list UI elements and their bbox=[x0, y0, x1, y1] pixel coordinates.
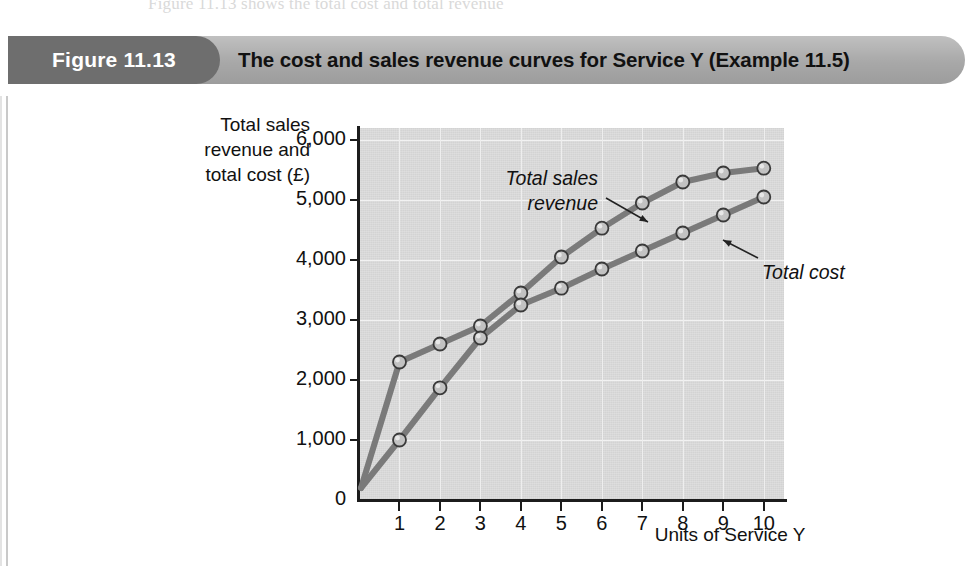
figure-caption-title: The cost and sales revenue curves for Se… bbox=[238, 36, 850, 84]
page-edge-outer bbox=[0, 96, 2, 566]
x-axis-tick-label: 3 bbox=[460, 512, 500, 535]
gridline-vertical bbox=[440, 128, 441, 500]
x-axis-tick-label: 2 bbox=[420, 512, 460, 535]
y-axis-tick-label: 0 bbox=[272, 487, 346, 510]
y-axis-tick bbox=[350, 259, 359, 261]
y-axis-tick bbox=[350, 379, 359, 381]
gridline-horizontal bbox=[359, 260, 784, 261]
y-axis-tick bbox=[350, 319, 359, 321]
x-axis-tick-label: 1 bbox=[379, 512, 419, 535]
x-axis-tick bbox=[641, 500, 643, 511]
gridline-horizontal bbox=[359, 440, 784, 441]
x-axis-tick bbox=[520, 500, 522, 511]
y-axis-tick bbox=[350, 439, 359, 441]
x-axis-tick bbox=[398, 500, 400, 511]
x-axis-tick-label: 4 bbox=[501, 512, 541, 535]
gridline-vertical bbox=[683, 128, 684, 500]
y-axis-tick-label: 3,000 bbox=[272, 307, 346, 330]
y-axis-tick-label: 1,000 bbox=[272, 427, 346, 450]
gridline-vertical bbox=[723, 128, 724, 500]
x-axis-tick bbox=[439, 500, 441, 511]
y-axis-title-line-3: total cost (£) bbox=[150, 162, 310, 187]
x-axis-title: Units of Service Y bbox=[600, 524, 860, 546]
figure-number-tag: Figure 11.13 bbox=[8, 36, 220, 84]
figure-number-label: Figure 11.13 bbox=[52, 48, 176, 72]
x-axis-tick-label: 5 bbox=[541, 512, 581, 535]
page-bleed-text: Figure 11.13 shows the total cost and to… bbox=[148, 0, 968, 16]
y-axis-tick bbox=[350, 199, 359, 201]
annotation-total-sales-revenue: Total sales revenue bbox=[468, 166, 598, 216]
gridline-vertical bbox=[642, 128, 643, 500]
y-axis-line bbox=[357, 126, 360, 502]
annotation-revenue-line-1: Total sales bbox=[468, 166, 598, 191]
gridline-horizontal bbox=[359, 140, 784, 141]
gridline-vertical bbox=[764, 128, 765, 500]
x-axis-tick bbox=[763, 500, 765, 511]
gridline-horizontal bbox=[359, 320, 784, 321]
y-axis-tick-label: 4,000 bbox=[272, 247, 346, 270]
x-axis-tick bbox=[560, 500, 562, 511]
annotation-total-cost: Total cost bbox=[762, 260, 845, 285]
y-axis-tick bbox=[350, 139, 359, 141]
gridline-horizontal bbox=[359, 380, 784, 381]
y-axis-tick-label: 2,000 bbox=[272, 367, 346, 390]
x-axis-tick bbox=[682, 500, 684, 511]
x-axis-tick bbox=[601, 500, 603, 511]
y-axis-tick-label: 5,000 bbox=[272, 187, 346, 210]
gridline-vertical bbox=[399, 128, 400, 500]
x-axis-tick bbox=[479, 500, 481, 511]
gridline-vertical bbox=[602, 128, 603, 500]
x-axis-tick bbox=[722, 500, 724, 511]
y-axis-tick-label: 6,000 bbox=[272, 127, 346, 150]
annotation-revenue-line-2: revenue bbox=[468, 191, 598, 216]
annotation-cost-line-1: Total cost bbox=[762, 260, 845, 285]
